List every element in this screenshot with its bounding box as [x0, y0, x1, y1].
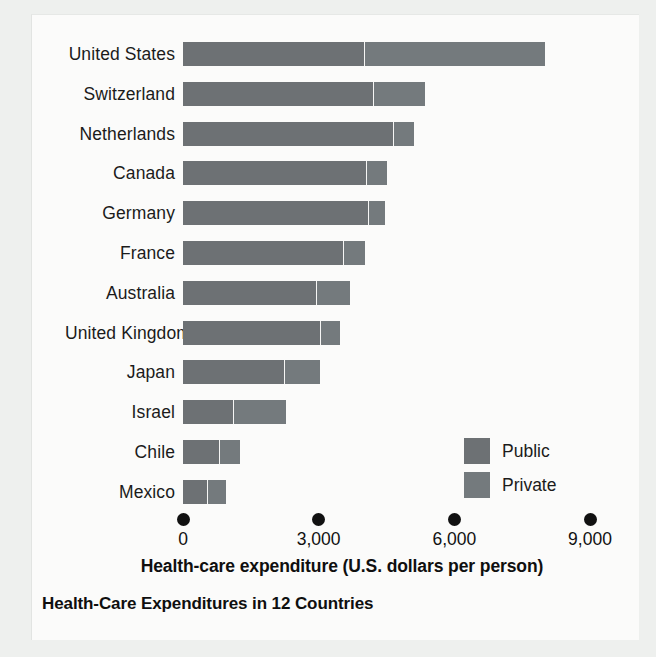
chart-legend: PublicPrivate	[464, 434, 614, 502]
legend-item[interactable]: Public	[464, 434, 614, 468]
axis-tick-label: 9,000	[545, 529, 635, 550]
legend-label: Private	[502, 475, 556, 496]
axis-tick-dot	[177, 513, 190, 526]
axis-tick-dot	[448, 513, 461, 526]
axis-tick-label: 0	[138, 529, 228, 550]
legend-swatch-icon	[464, 472, 490, 498]
x-axis-title: Health-care expenditure (U.S. dollars pe…	[0, 556, 656, 577]
chart-caption: Health-Care Expenditures in 12 Countries	[42, 594, 373, 614]
axis-tick-dot	[584, 513, 597, 526]
axis-tick-label: 3,000	[274, 529, 364, 550]
chart-page: United StatesSwitzerlandNetherlandsCanad…	[0, 0, 656, 657]
legend-label: Public	[502, 441, 550, 462]
legend-item[interactable]: Private	[464, 468, 614, 502]
axis-tick-dot	[312, 513, 325, 526]
axis-tick-label: 6,000	[409, 529, 499, 550]
legend-swatch-icon	[464, 438, 490, 464]
